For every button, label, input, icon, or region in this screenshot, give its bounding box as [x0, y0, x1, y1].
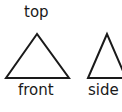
front-view-label: front [18, 83, 54, 98]
front-view-triangle [6, 34, 69, 78]
top-view-label: top [24, 5, 49, 20]
side-view-label: side [88, 83, 119, 98]
side-view-triangle [88, 34, 122, 78]
